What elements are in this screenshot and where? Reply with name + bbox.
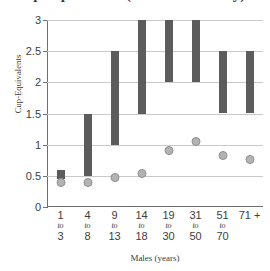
data-point-dot (110, 173, 119, 182)
range-bar (246, 51, 254, 113)
range-bar (192, 20, 200, 82)
y-tick-mark (43, 82, 47, 83)
range-bar (84, 114, 92, 176)
x-axis-category-label: 71 + (230, 210, 270, 221)
data-point-dot (245, 155, 254, 164)
category-range-separator: to (203, 222, 243, 230)
data-point-dot (137, 169, 146, 178)
chart-title: Cup-Equivalents (Amount of Dairy) (14, 0, 270, 4)
category-range-end: 70 (203, 231, 243, 242)
y-tick-label: 2 (35, 76, 41, 88)
range-bar (138, 20, 146, 114)
category-range-start: 71 + (230, 210, 270, 221)
data-point-dot (191, 137, 200, 146)
y-tick-mark (43, 51, 47, 52)
y-tick-mark (43, 114, 47, 115)
y-tick-label: 0.5 (26, 170, 41, 182)
data-point-dot (56, 178, 65, 187)
gridline (47, 145, 263, 146)
y-tick-mark (43, 20, 47, 21)
range-bar (111, 51, 119, 145)
y-tick-mark (43, 145, 47, 146)
gridline (47, 82, 263, 83)
x-axis-title: Males (years) (47, 253, 263, 263)
y-tick-label: 1.5 (26, 108, 41, 120)
y-tick-mark (43, 207, 47, 208)
range-bar (165, 20, 173, 82)
x-axis-line (47, 206, 263, 207)
y-tick-label: 3 (35, 14, 41, 26)
data-point-dot (164, 146, 173, 155)
gridline (47, 20, 263, 21)
plot-area: 00.511.522.53 (47, 20, 263, 207)
y-tick-label: 2.5 (26, 45, 41, 57)
range-bar (219, 51, 227, 113)
y-tick-mark (43, 176, 47, 177)
gridline (47, 176, 263, 177)
chart-figure: Cup-Equivalents (Amount of Dairy) Cup-Eq… (0, 0, 270, 271)
data-point-dot (83, 178, 92, 187)
y-axis-title: Cup-Equivalents (13, 19, 23, 149)
gridline (47, 114, 263, 115)
data-point-dot (218, 151, 227, 160)
y-tick-label: 1 (35, 139, 41, 151)
gridline (47, 51, 263, 52)
